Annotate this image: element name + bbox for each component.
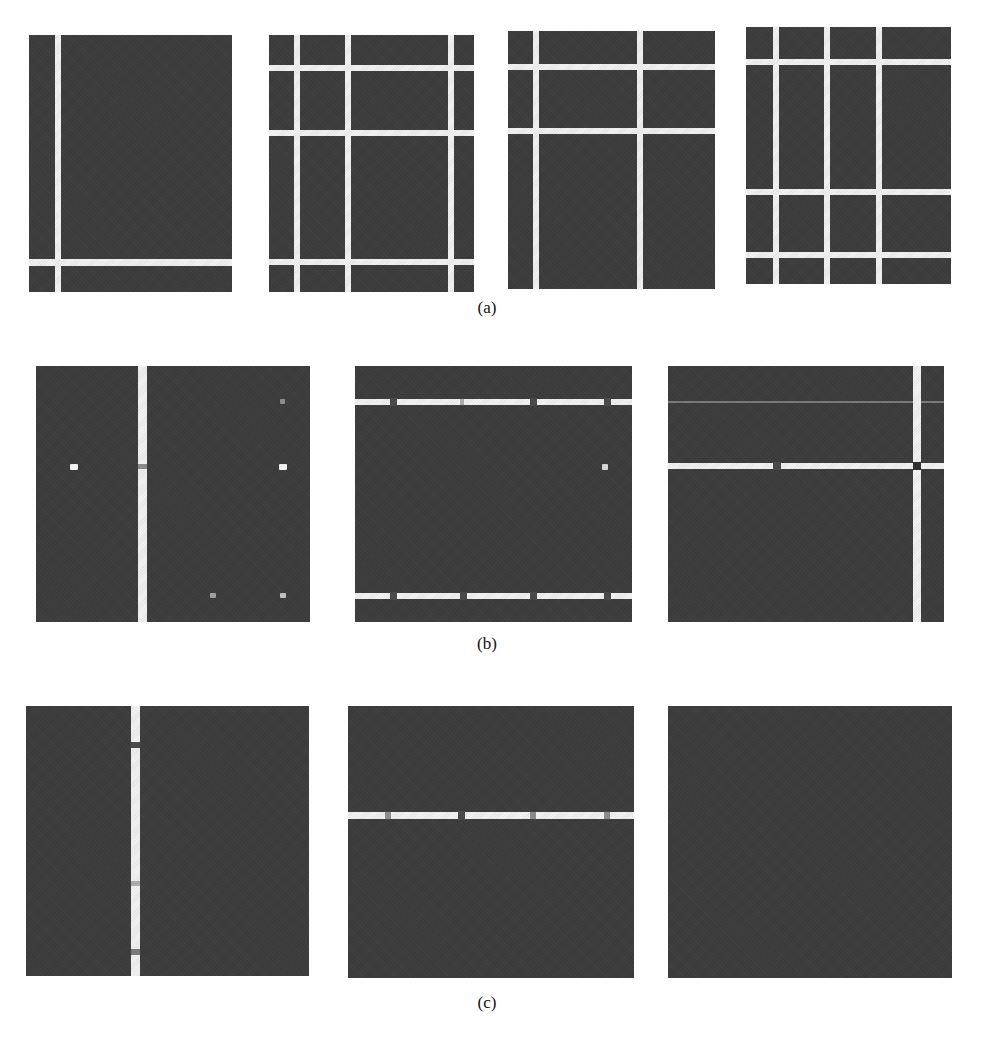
panel-a2	[269, 35, 474, 292]
line-break	[604, 398, 611, 406]
detected-line-vertical	[913, 366, 921, 622]
noise-dot	[279, 464, 287, 470]
noise-dot	[280, 593, 286, 598]
line-break	[773, 462, 781, 470]
grid-line-vertical	[773, 27, 779, 284]
grid-line-vertical	[345, 35, 351, 292]
grid-line-horizontal	[269, 259, 474, 265]
line-break	[131, 881, 140, 886]
line-break	[131, 949, 140, 955]
panel-a4	[746, 27, 951, 284]
detected-line-vertical	[138, 366, 147, 622]
grid-line-horizontal	[508, 128, 715, 134]
grid-line-vertical	[55, 35, 61, 292]
noise-dot	[70, 464, 78, 470]
grid-line-horizontal	[29, 259, 232, 266]
noise-dot	[210, 593, 216, 598]
panel-b1	[36, 366, 310, 622]
line-break	[385, 811, 391, 820]
caption-c: (c)	[478, 993, 497, 1013]
grid-line-vertical	[876, 27, 882, 284]
grid-line-vertical	[294, 35, 300, 292]
grid-line-horizontal	[508, 64, 715, 70]
panel-b2	[355, 366, 632, 622]
grid-line-horizontal	[269, 65, 474, 71]
grid-line-vertical	[824, 27, 830, 284]
grid-line-horizontal	[746, 59, 951, 65]
line-crossing	[913, 462, 921, 470]
line-break	[390, 398, 397, 406]
panel-b3	[668, 366, 944, 622]
panel-c2	[348, 706, 634, 978]
noise-dot	[280, 399, 285, 404]
line-break	[390, 592, 397, 600]
line-break	[460, 398, 464, 406]
panel-c1	[26, 706, 309, 976]
line-break	[138, 464, 147, 469]
panel-a1	[29, 35, 232, 292]
line-break	[530, 811, 536, 820]
panel-a3	[508, 31, 715, 289]
grid-line-vertical	[448, 35, 454, 292]
line-break	[458, 811, 465, 820]
line-break	[604, 811, 610, 820]
faint-line-horizontal	[668, 401, 944, 403]
grid-line-horizontal	[746, 189, 951, 195]
caption-b: (b)	[477, 634, 497, 654]
line-break	[460, 592, 467, 600]
grid-line-horizontal	[746, 252, 951, 258]
caption-a: (a)	[478, 298, 497, 318]
line-break	[530, 398, 537, 406]
panel-c3	[668, 706, 952, 978]
line-break	[131, 742, 140, 748]
line-break	[530, 592, 537, 600]
grid-line-horizontal	[269, 130, 474, 136]
detected-line-horizontal	[668, 463, 944, 469]
noise-dot	[602, 464, 608, 470]
line-break	[604, 592, 611, 600]
